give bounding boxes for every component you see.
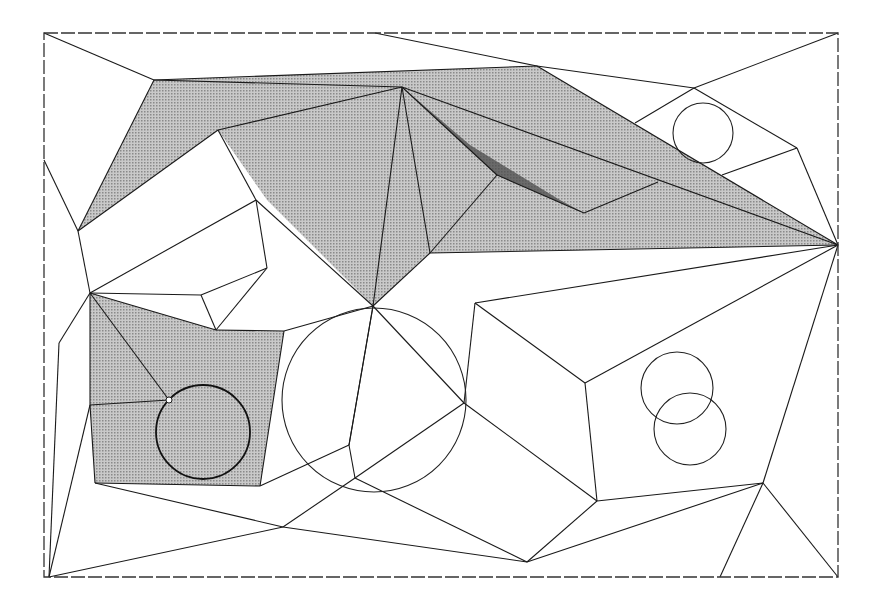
edge [349, 306, 373, 445]
edge [284, 306, 373, 331]
shaded-region-upper-corridor [78, 66, 838, 306]
overlap-circle-a [641, 352, 713, 424]
edge [763, 483, 838, 577]
edge [49, 527, 283, 577]
edge [373, 306, 464, 403]
edge [375, 33, 537, 66]
open-node [166, 397, 172, 403]
edge [44, 33, 154, 80]
edge [464, 403, 597, 501]
edge [201, 268, 267, 295]
edge [475, 245, 838, 303]
edge [694, 88, 797, 148]
triangulation-diagram [0, 0, 882, 611]
edge [349, 445, 355, 478]
edge [59, 293, 90, 343]
edge [78, 231, 90, 293]
edge [260, 445, 349, 486]
edge [720, 483, 763, 577]
edge [585, 383, 597, 501]
edge [527, 501, 597, 562]
graph-nodes [166, 397, 172, 403]
edge [90, 293, 201, 295]
edge [216, 268, 267, 330]
edge [95, 483, 283, 527]
edge [635, 88, 694, 123]
edge [694, 33, 838, 88]
edge [597, 483, 763, 501]
shaded-regions [78, 66, 838, 486]
edge [527, 483, 763, 562]
edge [722, 148, 797, 175]
edge [256, 200, 267, 268]
edge [355, 403, 464, 478]
edge [44, 160, 78, 231]
overlap-circle-b [654, 393, 726, 465]
edge [201, 295, 216, 330]
edge [763, 245, 838, 483]
edge [90, 200, 256, 293]
edge [283, 478, 355, 527]
upper-right-circle [673, 103, 733, 163]
edge [475, 303, 585, 383]
